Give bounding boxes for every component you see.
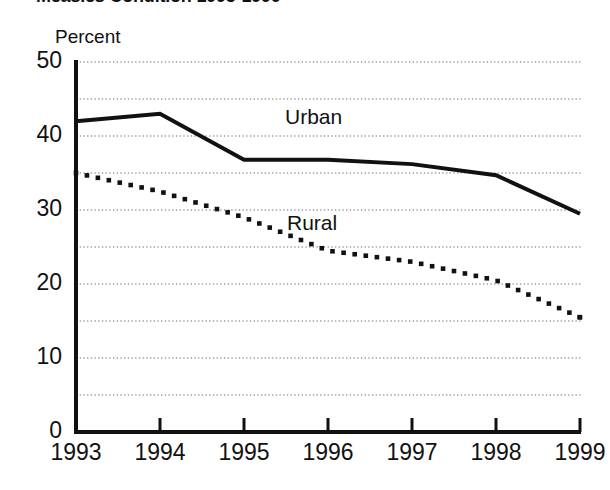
rural-dot: [526, 292, 531, 297]
rural-dot: [85, 173, 90, 178]
rural-dot: [299, 238, 304, 243]
rural-dot: [204, 203, 209, 208]
rural-dot: [352, 252, 357, 257]
rural-dot: [107, 178, 112, 183]
rural-dot: [578, 315, 583, 320]
x-axis-tick-label: 1993: [31, 441, 121, 464]
rural-dot: [161, 190, 166, 195]
rural-dot: [516, 288, 521, 293]
rural-dot: [96, 176, 101, 181]
y-axis-tick-label: 50: [4, 49, 62, 72]
rural-dot: [474, 274, 479, 279]
rural-dot: [215, 207, 220, 212]
y-axis-tick-label: 10: [4, 345, 62, 368]
rural-dot: [247, 217, 252, 222]
rural-dot: [139, 185, 144, 190]
rural-dot: [128, 183, 133, 188]
y-axis-tick-label: 20: [4, 271, 62, 294]
rural-dot: [267, 225, 272, 230]
rural-dot: [74, 171, 79, 176]
x-axis-tick-label: 1999: [535, 441, 610, 464]
rural-dot: [319, 246, 324, 251]
rural-dot: [430, 264, 435, 269]
rural-dot: [225, 210, 230, 215]
rural-dot: [278, 229, 283, 234]
rural-dot: [463, 271, 468, 276]
rural-dot: [193, 200, 198, 205]
rural-dot: [567, 310, 572, 315]
rural-dot: [452, 269, 457, 274]
series-label-rural: Rural: [287, 211, 337, 235]
rural-dot: [363, 253, 368, 258]
series-rural: [74, 171, 583, 320]
x-axis-tick-label: 1998: [451, 441, 541, 464]
rural-dot: [341, 250, 346, 255]
x-axis-tick-label: 1997: [367, 441, 457, 464]
rural-dot: [419, 262, 424, 267]
rural-dot: [386, 256, 391, 261]
rural-dot: [547, 301, 552, 306]
rural-dot: [441, 266, 446, 271]
rural-dot: [495, 279, 500, 284]
rural-dot: [172, 194, 177, 199]
rural-dot: [536, 297, 541, 302]
rural-dot: [506, 283, 511, 288]
rural-dot: [150, 188, 155, 193]
rural-dot: [330, 249, 335, 254]
rural-dot: [117, 180, 122, 185]
rural-dot: [485, 276, 490, 281]
y-axis-tick-label: 40: [4, 123, 62, 146]
x-axis-tick-label: 1996: [283, 441, 373, 464]
rural-dot: [183, 197, 188, 202]
rural-dot: [397, 258, 402, 263]
y-axis-tick-label: 30: [4, 197, 62, 220]
x-axis-tick-label: 1994: [115, 441, 205, 464]
rural-dot: [236, 213, 241, 218]
rural-dot: [557, 306, 562, 311]
x-axis-ticks: [76, 418, 580, 432]
rural-dot: [257, 221, 262, 226]
rural-dot: [408, 259, 413, 264]
series-label-urban: Urban: [285, 105, 342, 129]
x-axis-tick-label: 1995: [199, 441, 289, 464]
rural-dot: [309, 242, 314, 247]
rural-dot: [375, 255, 380, 260]
